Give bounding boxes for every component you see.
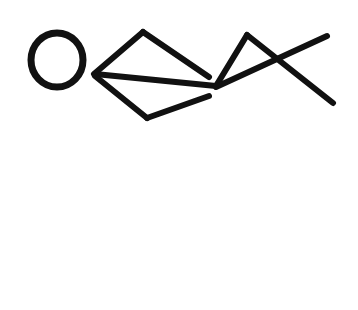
line-drawing-svg <box>0 0 358 310</box>
drawing-canvas <box>0 0 358 310</box>
